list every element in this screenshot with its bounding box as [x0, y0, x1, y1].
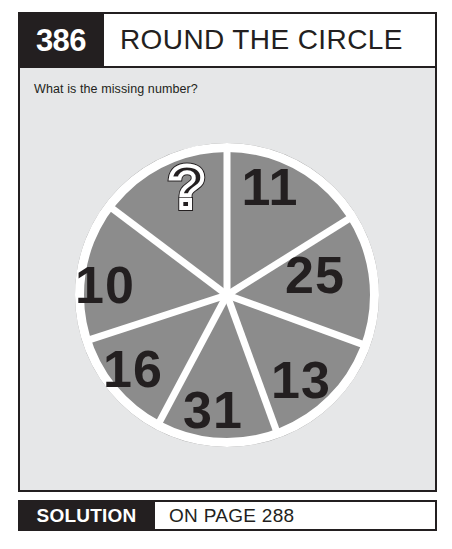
- solution-label: SOLUTION: [18, 500, 155, 531]
- page-title: ROUND THE CIRCLE: [120, 26, 403, 54]
- puzzle-body: What is the missing number? ??1125133116…: [18, 68, 437, 492]
- solution-bar: SOLUTION ON PAGE 288: [18, 500, 437, 531]
- solution-page-reference: ON PAGE 288: [169, 505, 294, 527]
- question-text: What is the missing number?: [34, 82, 198, 96]
- segment-label-10: 10: [75, 256, 135, 314]
- puzzle-page: 386 ROUND THE CIRCLE What is the missing…: [0, 0, 452, 549]
- round-the-circle-diagram: ??112513311610: [65, 133, 389, 457]
- puzzle-title-box: ROUND THE CIRCLE: [104, 12, 437, 68]
- segment-label-13: 13: [271, 351, 331, 409]
- pie-chart: ??112513311610: [65, 133, 389, 457]
- segment-label-16: 16: [103, 340, 163, 398]
- segment-label-25: 25: [285, 246, 345, 304]
- segment-label-missing: ??: [168, 152, 206, 221]
- segment-label-31: 31: [183, 381, 243, 439]
- solution-page-box: ON PAGE 288: [155, 500, 437, 531]
- segment-label-11: 11: [242, 158, 299, 216]
- svg-text:?: ?: [168, 152, 206, 221]
- puzzle-number: 386: [18, 12, 104, 68]
- puzzle-header: 386 ROUND THE CIRCLE: [18, 12, 437, 68]
